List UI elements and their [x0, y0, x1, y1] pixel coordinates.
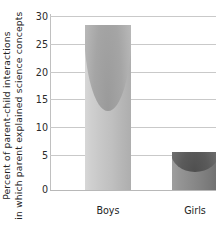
y-axis-tick-labels: 30 25 20 15 10 5 0 [28, 0, 48, 232]
bar-girls [172, 152, 216, 190]
y-axis-title-line-1-text: Percent of parent-child interactions [2, 32, 11, 201]
y-axis-title-line-2-text: in which parent explained science concep… [14, 12, 23, 220]
x-axis-label-boys: Boys [71, 206, 145, 216]
y-tick-label-5: 5 [28, 151, 48, 161]
x-axis-label-girls: Girls [158, 206, 216, 216]
y-axis-title-line-2: in which parent explained science concep… [12, 0, 25, 232]
gridline-30 [50, 16, 216, 17]
y-tick-label-0: 0 [28, 185, 48, 195]
bar-boys [85, 25, 131, 190]
y-tick-label-30: 30 [28, 12, 48, 22]
plot-wrapper: 30 25 20 15 10 5 0 [28, 0, 216, 232]
y-axis-title: Percent of parent-child interactions in … [0, 0, 26, 232]
gridline-10 [50, 127, 216, 128]
gridline-25 [50, 44, 216, 45]
y-tick-label-10: 10 [28, 123, 48, 133]
y-axis-line [50, 14, 51, 191]
bar-chart: Percent of parent-child interactions in … [0, 0, 216, 232]
plot-area: Boys Girls [50, 0, 216, 232]
y-tick-label-25: 25 [28, 40, 48, 50]
y-tick-label-15: 15 [28, 95, 48, 105]
gridline-baseline-0 [50, 190, 216, 191]
y-tick-label-20: 20 [28, 68, 48, 78]
gridline-20 [50, 72, 216, 73]
gridline-15 [50, 99, 216, 100]
